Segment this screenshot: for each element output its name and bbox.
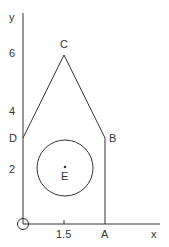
y-axis-label: y [9,11,15,23]
pentagon-shape [23,55,105,224]
x-tick-label-1-5: 1.5 [56,228,71,240]
point-label-e: E [61,170,68,182]
point-label-c: C [60,38,68,50]
point-label-a: A [101,228,109,240]
y-tick-label-6: 6 [9,47,15,59]
point-label-d: D [9,132,17,144]
diagram-canvas: y x 6 4 2 1.5 A B C D E [0,0,169,247]
point-label-b: B [109,132,116,144]
center-point-e [64,166,67,169]
x-axis-label: x [151,228,157,240]
y-tick-label-4: 4 [9,105,15,117]
y-tick-label-2: 2 [9,163,15,175]
